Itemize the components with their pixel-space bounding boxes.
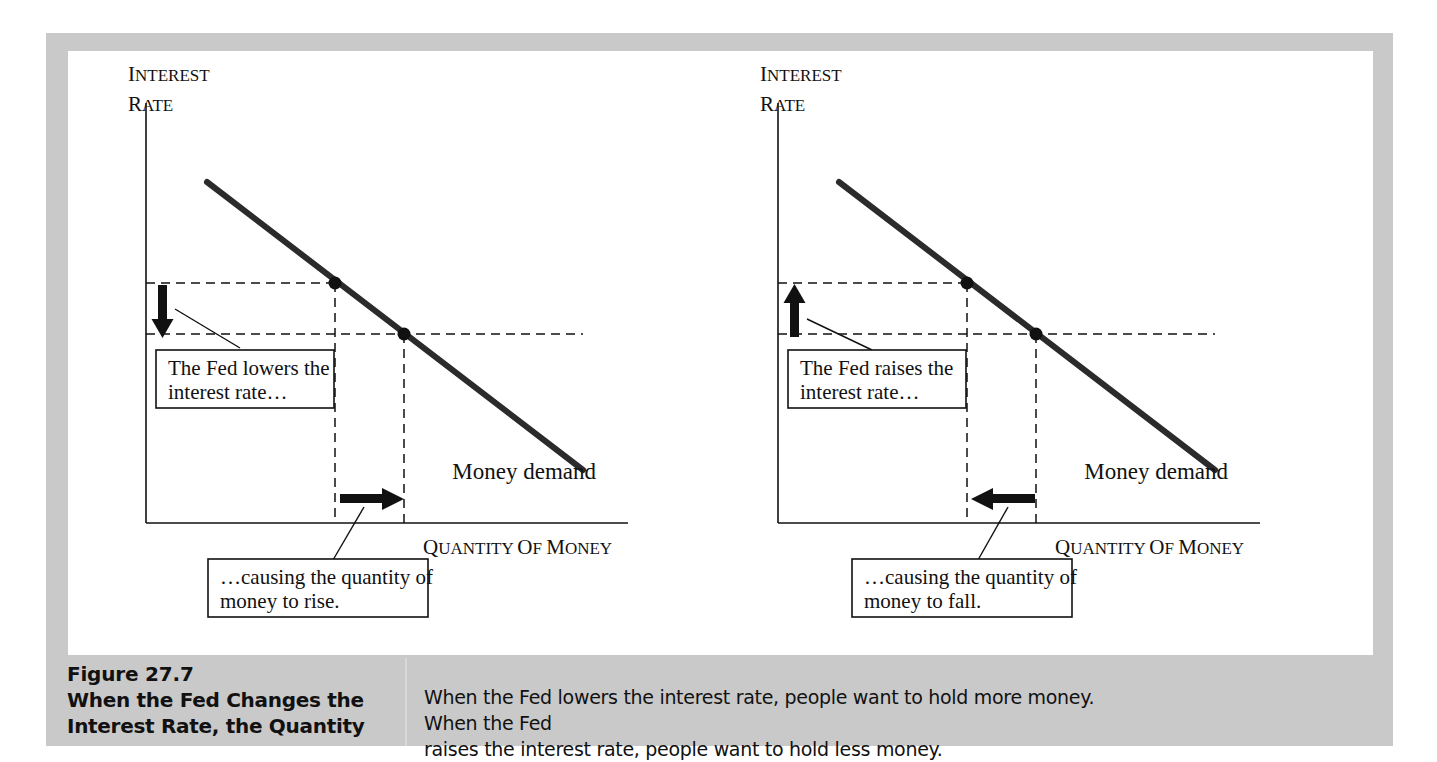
callout-rate-line1: The Fed raises the [800, 356, 953, 380]
caption-divider [405, 658, 407, 746]
quantity-callout-leader [978, 507, 1008, 560]
quantity-change-arrow-right [340, 488, 404, 510]
callout-rate-change: The Fed lowers the interest rate… [156, 350, 334, 408]
x-axis-label: QUANTITY OF MONEY [1055, 535, 1244, 559]
diagram-raise-rate: INTEREST RATE QUANTITY OF MONEY Money de… [700, 51, 1360, 655]
callout-rate-line1: The Fed lowers the [168, 356, 330, 380]
figure-title-line1: When the Fed Changes the [67, 687, 387, 713]
callout-quantity-line2: money to fall. [864, 589, 981, 613]
callout-rate-line2: interest rate… [800, 380, 920, 404]
rate-change-arrow-down [152, 285, 174, 338]
caption-line-1: When the Fed lowers the interest rate, p… [424, 684, 1124, 736]
panel-fed-lowers-rate: INTEREST RATE QUANTITY OF MONEY Money de… [68, 51, 728, 655]
callout-quantity-change: …causing the quantity of money to rise. [208, 559, 433, 617]
x-axis-label: QUANTITY OF MONEY [423, 535, 612, 559]
y-axis-label-line2: RATE [128, 92, 173, 116]
money-demand-curve [207, 182, 583, 470]
money-demand-label: Money demand [452, 459, 596, 484]
diagram-lower-rate: INTEREST RATE QUANTITY OF MONEY Money de… [68, 51, 728, 655]
figure-caption: When the Fed lowers the interest rate, p… [424, 684, 1124, 762]
callout-quantity-line1: …causing the quantity of [864, 565, 1077, 589]
callout-quantity-change: …causing the quantity of money to fall. [852, 559, 1077, 617]
rate-callout-leader [175, 309, 240, 348]
equilibrium-point-initial [329, 277, 342, 290]
callout-quantity-line2: money to rise. [220, 589, 340, 613]
quantity-callout-leader [333, 507, 364, 560]
panel-fed-raises-rate: INTEREST RATE QUANTITY OF MONEY Money de… [700, 51, 1360, 655]
y-axis-label-line2: RATE [760, 92, 805, 116]
y-axis-label: INTEREST [128, 62, 210, 86]
callout-quantity-line1: …causing the quantity of [220, 565, 433, 589]
callout-rate-line2: interest rate… [168, 380, 288, 404]
money-demand-curve [839, 182, 1215, 470]
equilibrium-point-new [1030, 328, 1043, 341]
quantity-change-arrow-left [971, 488, 1035, 510]
equilibrium-point-new [398, 328, 411, 341]
caption-line-2: raises the interest rate, people want to… [424, 736, 1124, 762]
money-demand-label: Money demand [1084, 459, 1228, 484]
figure-number: Figure 27.7 [67, 662, 387, 687]
figure-heading: Figure 27.7 When the Fed Changes the Int… [67, 662, 387, 739]
figure-title-line2: Interest Rate, the Quantity [67, 713, 387, 739]
equilibrium-point-initial [961, 277, 974, 290]
callout-rate-change: The Fed raises the interest rate… [788, 350, 966, 408]
y-axis-label: INTEREST [760, 62, 842, 86]
rate-change-arrow-up [784, 284, 806, 337]
